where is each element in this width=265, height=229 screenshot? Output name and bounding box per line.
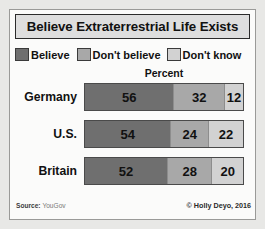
source-label: Source: [16,202,41,209]
category-label-germany: Germany [10,90,84,104]
bar-germany: 56 32 12 [84,83,244,111]
bar-segment-germany-believe: 56 [85,84,173,110]
bar-segment-germany-dont-believe: 32 [173,84,224,110]
bar-value-britain-dont-know: 20 [220,164,234,179]
bar-us: 54 24 22 [84,120,244,148]
chart-panel: Believe Extraterrestrial Life Exists Bel… [9,9,256,220]
bar-segment-britain-dont-believe: 28 [167,158,211,184]
bar-segment-us-believe: 54 [85,121,170,147]
bar-value-britain-dont-believe: 28 [183,164,197,179]
chart-row-germany: Germany 56 32 12 [10,83,255,111]
bar-value-britain-believe: 52 [119,164,133,179]
source-note: Source: YouGov [16,202,66,209]
legend-label-dont-know: Don't know [183,49,242,61]
bar-segment-britain-believe: 52 [85,158,167,184]
legend-label-dont-believe: Don't believe [93,49,161,61]
chart-row-britain: Britain 52 28 20 [10,157,255,185]
legend-item-dont-believe: Don't believe [77,48,161,61]
infographic-frame: Believe Extraterrestrial Life Exists Bel… [0,0,265,229]
chart-legend: Believe Don't believe Don't know [15,46,250,63]
category-label-us: U.S. [10,127,84,141]
category-label-britain: Britain [10,164,84,178]
chart-row-us: U.S. 54 24 22 [10,120,255,148]
bar-value-germany-believe: 56 [122,90,136,105]
legend-swatch-dont-know [167,48,181,61]
bar-segment-us-dont-know: 22 [208,121,243,147]
bar-segment-us-dont-believe: 24 [170,121,208,147]
legend-item-believe: Believe [15,48,70,61]
legend-label-believe: Believe [31,49,70,61]
legend-item-dont-know: Don't know [167,48,242,61]
stacked-bar-chart: Germany 56 32 12 U.S. 54 [10,82,255,192]
page-title: Believe Extraterrestrial Life Exists [27,19,238,34]
copyright-credit: © Holly Deyo, 2016 [187,201,251,210]
chart-footer: Source: YouGov © Holly Deyo, 2016 [16,198,251,212]
bar-segment-britain-dont-know: 20 [211,158,243,184]
bar-britain: 52 28 20 [84,157,244,185]
bar-value-us-believe: 54 [120,127,134,142]
bar-value-germany-dont-believe: 32 [192,90,206,105]
bar-segment-germany-dont-know: 12 [224,84,243,110]
axis-label-percent: Percent [84,67,244,79]
bar-value-us-dont-believe: 24 [183,127,197,142]
chart-title-banner: Believe Extraterrestrial Life Exists [15,14,250,39]
legend-swatch-believe [15,48,29,61]
bar-value-germany-dont-know: 12 [227,90,241,105]
bar-value-us-dont-know: 22 [219,127,233,142]
legend-swatch-dont-believe [77,48,91,61]
source-value: YouGov [42,202,65,209]
